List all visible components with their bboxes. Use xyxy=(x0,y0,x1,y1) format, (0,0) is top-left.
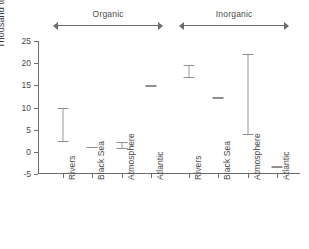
y-axis-title: Thousand tonnes per year xyxy=(0,0,6,48)
error-bar-cap-upper xyxy=(242,54,253,55)
y-tick-label: 5 xyxy=(26,125,31,135)
x-tick xyxy=(63,174,64,178)
category-label: Black Sea xyxy=(96,141,106,180)
group-label-organic: Organic xyxy=(93,9,124,19)
x-tick xyxy=(92,174,93,178)
y-tick xyxy=(34,63,38,64)
error-bar-cap-lower xyxy=(58,141,69,142)
y-tick-label: 20 xyxy=(22,58,31,68)
y-tick-label: 10 xyxy=(22,103,31,113)
x-tick xyxy=(189,174,190,178)
y-tick xyxy=(34,152,38,153)
category-label: Black Sea xyxy=(222,141,232,180)
y-tick-label: 25 xyxy=(22,36,31,46)
error-bar-stem xyxy=(189,65,190,77)
y-tick-label: 15 xyxy=(22,80,31,90)
data-point-marker xyxy=(55,41,71,174)
error-bar-cap-upper xyxy=(58,108,69,109)
inorganic-span-arrow-right xyxy=(284,22,289,30)
y-tick xyxy=(34,130,38,131)
y-tick xyxy=(34,85,38,86)
y-tick xyxy=(34,108,38,109)
category-label: Atlantic xyxy=(281,151,291,180)
x-tick xyxy=(218,174,219,178)
x-tick xyxy=(151,174,152,178)
error-bar-cap-lower xyxy=(184,77,195,78)
x-tick xyxy=(248,174,249,178)
y-tick-label: 0 xyxy=(26,147,31,157)
y-tick-label: -5 xyxy=(23,169,31,179)
data-point-marker xyxy=(181,41,197,174)
y-axis-line xyxy=(38,41,39,174)
x-tick xyxy=(277,174,278,178)
x-tick xyxy=(122,174,123,178)
value-dash xyxy=(146,85,157,87)
group-label-inorganic: Inorganic xyxy=(216,9,253,19)
value-dash xyxy=(213,97,224,99)
chart-figure: Organic Inorganic Thousand tonnes per ye… xyxy=(0,0,309,249)
category-label: Rivers xyxy=(193,155,203,180)
organic-span-arrow-right xyxy=(158,22,163,30)
organic-span-line xyxy=(58,25,158,26)
inorganic-span-line xyxy=(184,25,284,26)
error-bar-stem xyxy=(63,108,64,141)
y-tick xyxy=(34,41,38,42)
category-label: Atmosphere xyxy=(126,133,136,180)
category-label: Rivers xyxy=(67,155,77,180)
error-bar-cap-upper xyxy=(184,65,195,66)
category-label: Atlantic xyxy=(155,151,165,180)
category-label: Atmosphere xyxy=(252,133,262,180)
y-tick xyxy=(34,174,38,175)
error-bar-stem xyxy=(247,54,248,134)
